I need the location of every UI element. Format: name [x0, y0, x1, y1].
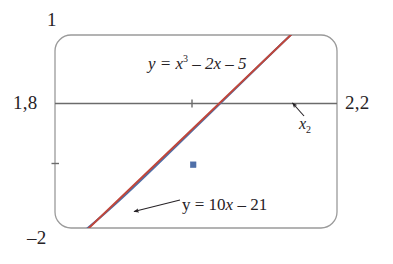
axis-label-x-min: 1,8 [13, 93, 38, 112]
axis-label-y-min: –2 [27, 228, 47, 247]
axis-label-y-max: 1 [47, 10, 57, 29]
cubic-equation-tail: – 2x – 5 [188, 54, 247, 73]
line-equation-label: y = 10x – 21 [182, 196, 267, 213]
root-label-x2: x2 [299, 115, 311, 135]
cubic-equation-label: y = x3 – 2x – 5 [148, 54, 247, 72]
tangency-point-marker [190, 162, 196, 168]
root-label-subscript: 2 [306, 124, 311, 135]
plot-canvas [0, 0, 393, 264]
line-equation-head: y = 10 [182, 195, 226, 214]
cubic-equation-head: y = x [148, 54, 183, 73]
line-equation-tail: – 21 [233, 195, 267, 214]
line-equation-variable: x [226, 195, 234, 214]
graph-figure: 1 1,8 2,2 –2 y = x3 – 2x – 5 y = 10x – 2… [0, 0, 393, 264]
axis-label-x-max: 2,2 [345, 93, 370, 112]
